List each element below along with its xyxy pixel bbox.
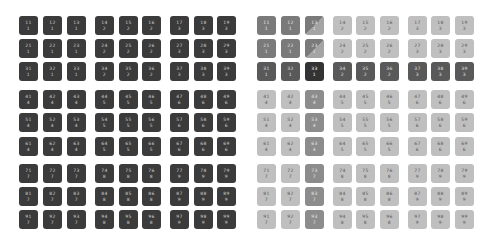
grid-cell-83[interactable]: 837: [305, 187, 324, 206]
grid-cell-81[interactable]: 817: [257, 187, 276, 206]
cell-block-number: 1: [289, 49, 292, 55]
grid-cell-23[interactable]: 231: [305, 39, 324, 58]
grid-cell-47[interactable]: 476: [408, 90, 427, 109]
grid-cell-89[interactable]: 899: [455, 187, 474, 206]
grid-cell-85[interactable]: 858: [356, 187, 375, 206]
grid-cell-42[interactable]: 424: [281, 90, 300, 109]
grid-cell-56[interactable]: 565: [380, 113, 399, 132]
cell-block-number: 8: [364, 220, 367, 226]
cell-block-number: 6: [463, 100, 466, 106]
grid-cell-26[interactable]: 262: [380, 39, 399, 58]
grid-cell-91[interactable]: 917: [257, 210, 276, 229]
cell-block-number: 5: [388, 147, 391, 153]
grid-cell-82[interactable]: 827: [281, 187, 300, 206]
grid-cell-65[interactable]: 655: [356, 137, 375, 156]
grid-cell-35[interactable]: 352: [356, 62, 375, 81]
grid-cell-12[interactable]: 121: [281, 16, 300, 35]
grid-cell-88[interactable]: 889: [431, 187, 450, 206]
grid-cell-55[interactable]: 555: [356, 113, 375, 132]
grid-cell-64[interactable]: 645: [333, 137, 352, 156]
grid-cell-96[interactable]: 968: [380, 210, 399, 229]
grid-cell-79[interactable]: 799: [455, 164, 474, 183]
grid-cell-39[interactable]: 393: [455, 62, 474, 81]
grid-cell-53[interactable]: 534: [305, 113, 324, 132]
grid-cell-77[interactable]: 779: [408, 164, 427, 183]
grid-cell-75[interactable]: 758: [356, 164, 375, 183]
grid-cell-68[interactable]: 686: [431, 137, 450, 156]
grid-cell-87[interactable]: 879: [408, 187, 427, 206]
cell-block-number: 2: [388, 72, 391, 78]
grid-cell-84[interactable]: 848: [333, 187, 352, 206]
grid-cell-14[interactable]: 142: [333, 16, 352, 35]
grid-cell-19[interactable]: 193: [455, 16, 474, 35]
cell-block-number: 5: [364, 100, 367, 106]
grid-cell-18[interactable]: 183: [431, 16, 450, 35]
cell-block-number: 4: [289, 123, 292, 129]
grid-cell-29[interactable]: 293: [455, 39, 474, 58]
grid-cell-21[interactable]: 211: [257, 39, 276, 58]
grid-cell-67[interactable]: 676: [408, 137, 427, 156]
grid-cell-43[interactable]: 434: [305, 90, 324, 109]
grid-cell-86[interactable]: 868: [380, 187, 399, 206]
grid-cell-57[interactable]: 576: [408, 113, 427, 132]
grid-cell-27[interactable]: 273: [408, 39, 427, 58]
grid-cell-24[interactable]: 242: [333, 39, 352, 58]
cell-block-number: 8: [341, 174, 344, 180]
grid-cell-33[interactable]: 331: [305, 62, 324, 81]
grid-cell-92[interactable]: 927: [281, 210, 300, 229]
grid-cell-28[interactable]: 283: [431, 39, 450, 58]
cell-block-number: 7: [265, 174, 268, 180]
grid-cell-99[interactable]: 999: [455, 210, 474, 229]
cell-block-number: 2: [364, 49, 367, 55]
grid-cell-74[interactable]: 748: [333, 164, 352, 183]
grid-cell-44[interactable]: 445: [333, 90, 352, 109]
cell-block-number: 7: [313, 220, 316, 226]
grid-cell-66[interactable]: 665: [380, 137, 399, 156]
grid-cell-98[interactable]: 989: [431, 210, 450, 229]
grid-cell-72[interactable]: 727: [281, 164, 300, 183]
grid-cell-46[interactable]: 465: [380, 90, 399, 109]
grid-cell-78[interactable]: 789: [431, 164, 450, 183]
grid-cell-16[interactable]: 162: [380, 16, 399, 35]
grid-cell-17[interactable]: 173: [408, 16, 427, 35]
grid-cell-25[interactable]: 252: [356, 39, 375, 58]
grid-cell-22[interactable]: 221: [281, 39, 300, 58]
grid-cell-34[interactable]: 342: [333, 62, 352, 81]
grid-cell-71[interactable]: 717: [257, 164, 276, 183]
grid-cell-73[interactable]: 737: [305, 164, 324, 183]
cell-block-number: 5: [341, 123, 344, 129]
grid-cell-63[interactable]: 634: [305, 137, 324, 156]
grid-cell-15[interactable]: 152: [356, 16, 375, 35]
cell-block-number: 8: [341, 220, 344, 226]
grid-cell-62[interactable]: 624: [281, 137, 300, 156]
grid-cell-45[interactable]: 455: [356, 90, 375, 109]
grid-cell-41[interactable]: 414: [257, 90, 276, 109]
cell-block-number: 2: [341, 26, 344, 32]
grid-cell-59[interactable]: 596: [455, 113, 474, 132]
grid-cell-94[interactable]: 948: [333, 210, 352, 229]
grid-cell-13[interactable]: 131: [305, 16, 324, 35]
grid-cell-37[interactable]: 373: [408, 62, 427, 81]
grid-cell-11[interactable]: 111: [257, 16, 276, 35]
grid-cell-36[interactable]: 362: [380, 62, 399, 81]
grid-cell-58[interactable]: 586: [431, 113, 450, 132]
grid-cell-97[interactable]: 979: [408, 210, 427, 229]
grid-cell-93[interactable]: 937: [305, 210, 324, 229]
grid-cell-38[interactable]: 383: [431, 62, 450, 81]
grid-cell-52[interactable]: 524: [281, 113, 300, 132]
grid-cell-95[interactable]: 958: [356, 210, 375, 229]
cell-block-number: 9: [416, 174, 419, 180]
cell-block-number: 7: [289, 220, 292, 226]
grid-cell-32[interactable]: 321: [281, 62, 300, 81]
grid-cell-51[interactable]: 514: [257, 113, 276, 132]
grid-cell-61[interactable]: 614: [257, 137, 276, 156]
cell-block-number: 6: [439, 147, 442, 153]
grid-cell-31[interactable]: 311: [257, 62, 276, 81]
cell-block-number: 2: [341, 49, 344, 55]
cell-block-number: 8: [341, 197, 344, 203]
grid-cell-54[interactable]: 545: [333, 113, 352, 132]
grid-cell-69[interactable]: 696: [455, 137, 474, 156]
grid-cell-76[interactable]: 768: [380, 164, 399, 183]
grid-cell-48[interactable]: 486: [431, 90, 450, 109]
grid-cell-49[interactable]: 496: [455, 90, 474, 109]
